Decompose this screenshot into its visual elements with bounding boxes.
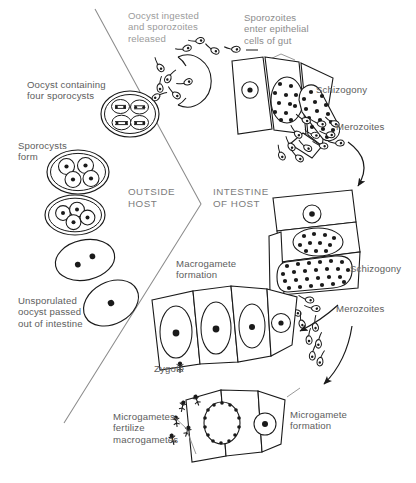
label-schizogony-lower: Schizogony	[350, 263, 401, 274]
label-zygote: Zygote	[154, 363, 184, 374]
diagram-artwork	[0, 0, 416, 483]
label-sporozoites-enter: Sporozoites enter epithelial cells of gu…	[244, 12, 309, 46]
diagram-canvas: Oocyst ingested and sporozoites released…	[0, 0, 416, 483]
stage-sporulating-oocyst	[45, 195, 105, 235]
label-schizogony-upper: Schizogony	[316, 84, 367, 95]
label-unsporulated-oocyst: Unsporulated oocyst passed out of intest…	[18, 295, 83, 329]
region-label-outside-host: OUTSIDE HOST	[128, 186, 175, 210]
label-merozoites-lower: Merozoites	[336, 303, 384, 314]
region-label-intestine-of-host: INTESTINE OF HOST	[213, 186, 269, 210]
stage-two-cell-oocyst	[51, 234, 118, 286]
stage-oocyst-four-sporocysts	[101, 91, 159, 137]
label-microgametes-fertilize: Microgametes fertilize macrogametes	[113, 411, 178, 445]
label-macrogamete-formation: Macrogamete formation	[176, 258, 236, 281]
label-oocyst-four-sporocysts: Oocyst containing four sporocysts	[27, 79, 106, 102]
label-sporocysts-form: Sporocysts form	[18, 140, 67, 163]
stage-ingested-oocyst	[150, 34, 241, 107]
label-merozoites-upper: Merozoites	[336, 121, 384, 132]
label-microgamete-formation: Microgamete formation	[290, 409, 347, 432]
label-oocyst-ingested: Oocyst ingested and sporozoites released	[128, 10, 199, 44]
